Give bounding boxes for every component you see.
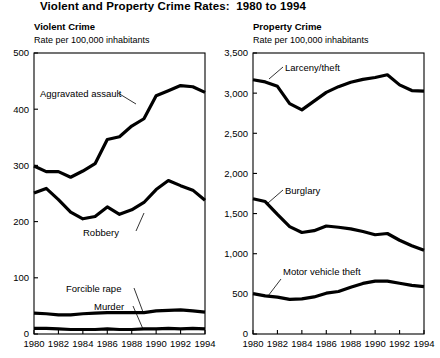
violent-ytick-label: 100: [13, 272, 29, 283]
series-label-robbery: Robbery: [83, 227, 119, 238]
property-series-motor-vehicle-theft: [253, 281, 424, 299]
series-label-forcible-rape: Forcible rape: [66, 283, 121, 294]
left-annotations: Aggravated assault Robbery Forcible rape…: [40, 88, 144, 329]
property-ytick-label: 2,500: [224, 128, 248, 139]
violent-ytick-label: 200: [13, 216, 29, 227]
series-label-aggravated-assault: Aggravated assault: [40, 88, 122, 99]
charts-canvas: 0100200300400500198019821984198619881990…: [0, 0, 440, 358]
property-xtick-label: 1980: [242, 338, 263, 349]
leader-line-murder: [133, 306, 143, 329]
series-label-murder: Murder: [94, 301, 124, 312]
left-panel-title: Violent Crime: [34, 21, 95, 32]
violent-xtick-label: 1990: [146, 338, 167, 349]
violent-xtick-label: 1988: [121, 338, 142, 349]
violent-series-aggravated-assault: [34, 86, 205, 178]
violent-series-murder: [34, 328, 205, 329]
property-xtick-label: 1990: [365, 338, 386, 349]
property-crime-chart: 05001,0001,5002,0002,5003,0003,500198019…: [224, 47, 434, 349]
violent-ytick-label: 500: [13, 47, 29, 58]
violent-xtick-label: 1984: [72, 338, 93, 349]
property-series-burglary: [253, 199, 424, 251]
violent-xtick-label: 1994: [194, 338, 215, 349]
property-xtick-label: 1988: [340, 338, 361, 349]
series-label-larceny-theft: Larceny/theft: [285, 62, 340, 73]
property-xtick-label: 1984: [291, 338, 312, 349]
right-annotations: Larceny/theft Burglary Motor vehicle the…: [268, 62, 361, 296]
property-xtick-label: 1982: [267, 338, 288, 349]
property-ytick-label: 2,000: [224, 168, 248, 179]
leader-line-larceny-theft: [269, 67, 283, 79]
property-ytick-label: 1,000: [224, 248, 248, 259]
right-panel-title: Property Crime: [253, 21, 322, 32]
violent-xtick-label: 1982: [48, 338, 69, 349]
violent-ytick-label: 300: [13, 160, 29, 171]
crime-rates-figure: Violent and Property Crime Rates: 1980 t…: [0, 0, 440, 358]
property-xtick-label: 1992: [389, 338, 410, 349]
property-series-larceny-theft: [253, 75, 424, 110]
leader-line-burglary: [268, 190, 283, 203]
violent-xtick-label: 1986: [97, 338, 118, 349]
right-panel-subtitle: Rate per 100,000 inhabitants: [253, 35, 369, 45]
violent-xtick-label: 1980: [23, 338, 44, 349]
property-xtick-label: 1986: [316, 338, 337, 349]
property-xtick-label: 1994: [413, 338, 434, 349]
leader-line-robbery: [136, 213, 144, 231]
series-label-motor-vehicle-theft: Motor vehicle theft: [283, 266, 361, 277]
property-ytick-label: 500: [232, 288, 248, 299]
violent-series-robbery: [34, 181, 205, 219]
leader-line-motor-vehicle-theft: [268, 279, 281, 296]
series-label-burglary: Burglary: [285, 185, 321, 196]
leader-line-forcible-rape: [134, 288, 143, 312]
left-panel-subtitle: Rate per 100,000 inhabitants: [34, 35, 150, 45]
property-ytick-label: 1,500: [224, 208, 248, 219]
violent-xtick-label: 1992: [170, 338, 191, 349]
property-ytick-label: 3,000: [224, 88, 248, 99]
violent-ytick-label: 400: [13, 104, 29, 115]
figure-title: Violent and Property Crime Rates: 1980 t…: [40, 0, 306, 12]
property-ytick-label: 3,500: [224, 47, 248, 58]
